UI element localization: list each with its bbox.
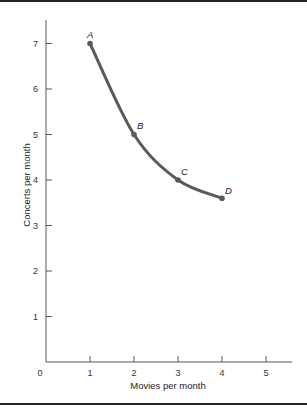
data-points: ABCD <box>86 29 232 202</box>
data-point-c <box>175 177 181 183</box>
y-tick-label: 4 <box>33 175 38 185</box>
y-tick-label: 2 <box>33 266 38 276</box>
x-axis-title: Movies per month <box>130 380 206 391</box>
data-point-b <box>131 132 137 138</box>
y-ticks: 1234567 <box>33 39 52 322</box>
y-tick-label: 5 <box>33 130 38 140</box>
point-label-d: D <box>225 185 232 196</box>
y-axis-title: Concerts per month <box>21 143 32 226</box>
x-tick-label: 3 <box>175 368 180 378</box>
x-tick-label: 4 <box>219 368 224 378</box>
point-label-a: A <box>86 29 93 40</box>
x-ticks: 12345 <box>87 356 268 378</box>
indifference-curve <box>90 44 222 199</box>
y-tick-label: 1 <box>33 312 38 322</box>
y-tick-label: 6 <box>33 84 38 94</box>
point-label-b: B <box>137 120 144 131</box>
y-tick-label: 7 <box>33 39 38 49</box>
chart: 12345 1234567 0 Movies per month Concert… <box>0 0 307 415</box>
y-tick-label: 3 <box>33 221 38 231</box>
x-tick-label: 2 <box>131 368 136 378</box>
data-point-a <box>87 41 93 47</box>
point-label-c: C <box>181 166 188 177</box>
origin-label: 0 <box>37 368 42 378</box>
data-point-d <box>219 195 225 201</box>
x-tick-label: 1 <box>87 368 92 378</box>
x-tick-label: 5 <box>263 368 268 378</box>
